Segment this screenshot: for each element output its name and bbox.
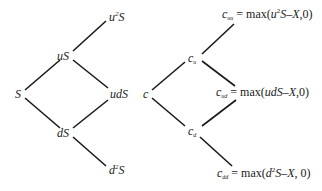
node-label: dS <box>57 126 69 140</box>
payoff-formula: = max(udS–X,0) <box>227 85 309 99</box>
node-cd: cd <box>188 125 196 137</box>
edge-cu-cuu <box>202 24 234 54</box>
node-label: S <box>15 87 21 101</box>
formula-prefix: = max( <box>227 85 264 99</box>
node-label: uS <box>57 49 69 63</box>
node-cud: cud = max(udS–X,0) <box>216 86 309 98</box>
payoff-formula: = max(d2S–X, 0) <box>228 166 310 180</box>
edge-cd-cdd <box>200 137 232 166</box>
formula-prefix: = max( <box>233 7 270 21</box>
node-s: S <box>15 88 21 100</box>
edge-cd-cud <box>202 100 236 126</box>
formula-var-post: S–X <box>275 166 294 180</box>
edge-us-uds <box>73 60 108 88</box>
node-cuu: cuu = max(u2S–X,0) <box>222 8 313 20</box>
formula-prefix: = max( <box>228 166 265 180</box>
edge-ds-uds <box>73 100 108 128</box>
edge-s-us <box>25 60 60 90</box>
node-label: udS <box>110 87 128 101</box>
node-cu: cu <box>188 52 196 64</box>
edge-us-u2s <box>73 21 106 51</box>
edge-c-cu <box>152 62 185 90</box>
node-d2s: d2S <box>109 164 125 176</box>
formula-suffix: ,0) <box>300 7 313 21</box>
node-ds: dS <box>57 127 69 139</box>
edge-cu-cud <box>202 61 235 86</box>
edge-ds-d2s <box>73 137 106 166</box>
node-us: uS <box>57 50 69 62</box>
payoff-formula: = max(u2S–X,0) <box>233 7 312 21</box>
node-u2s: u2S <box>109 11 125 23</box>
node-cdd: cdd = max(d2S–X, 0) <box>217 167 311 179</box>
edge-c-cd <box>152 98 185 126</box>
formula-var-post: S–X <box>280 7 299 21</box>
node-label-subscript: d <box>193 132 196 138</box>
node-label-subscript: u <box>193 59 196 65</box>
edge-s-ds <box>25 98 60 128</box>
formula-suffix: , 0) <box>295 166 311 180</box>
node-label-post: S <box>119 10 125 24</box>
node-uds: udS <box>110 88 128 100</box>
node-label: c <box>143 87 148 101</box>
node-c: c <box>143 88 148 100</box>
node-label-post: S <box>119 163 125 177</box>
formula-suffix: ,0) <box>296 85 309 99</box>
formula-var: udS–X <box>265 85 296 99</box>
